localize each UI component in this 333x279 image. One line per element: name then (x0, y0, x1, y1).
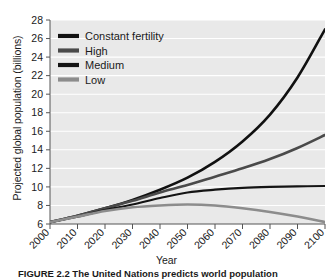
x-tick-label: 2010 (54, 226, 79, 251)
y-tick-label: 20 (31, 88, 43, 100)
y-tick-label: 10 (31, 181, 43, 193)
y-tick-label: 22 (31, 69, 43, 81)
x-tick-label: 2080 (246, 226, 271, 251)
y-axis-title: Projected global population (billions) (11, 18, 23, 218)
y-tick-label: 14 (31, 143, 43, 155)
legend-label-low: Low (85, 74, 105, 86)
figure-caption: FIGURE 2.2 The United Nations predicts w… (18, 268, 328, 279)
y-tick-label: 26 (31, 32, 43, 44)
legend-label-high: High (85, 45, 108, 57)
x-tick-label: 2050 (164, 226, 189, 251)
x-tick-label: 2060 (191, 226, 216, 251)
x-tick-label: 2100 (301, 226, 326, 251)
x-tick-label: 2040 (136, 226, 161, 251)
x-tick-label: 2020 (81, 226, 106, 251)
x-tick-label: 2030 (109, 226, 134, 251)
y-tick-label: 18 (31, 106, 43, 118)
x-tick-label: 2070 (219, 226, 244, 251)
legend-label-constant-fertility: Constant fertility (85, 30, 164, 42)
x-tick-label: 2000 (26, 226, 51, 251)
y-tick-label: 16 (31, 125, 43, 137)
x-axis-title: Year (0, 254, 333, 266)
y-tick-label: 12 (31, 162, 43, 174)
y-tick-label: 28 (31, 14, 43, 26)
x-tick-label: 2090 (274, 226, 299, 251)
y-tick-label: 24 (31, 51, 43, 63)
y-tick-label: 8 (37, 199, 43, 211)
legend-label-medium: Medium (85, 59, 124, 71)
